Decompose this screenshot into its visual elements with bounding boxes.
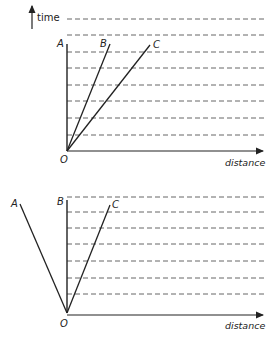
diagram-canvas: time A B C O distance — [0, 0, 278, 342]
bottom-line-c — [67, 205, 110, 313]
bottom-distance-label: distance — [225, 320, 265, 331]
top-label-c: C — [153, 39, 160, 50]
time-axis-label: time — [37, 12, 60, 23]
bottom-label-c: C — [112, 199, 119, 210]
top-distance-label: distance — [225, 157, 265, 168]
bottom-label-a: A — [10, 198, 18, 209]
bottom-line-a — [20, 204, 67, 313]
bottom-gridlines — [67, 197, 265, 294]
top-label-a: A — [56, 38, 64, 49]
bottom-diagram: A B C O distance — [10, 196, 265, 331]
top-origin-label: O — [60, 154, 68, 165]
top-label-b: B — [100, 38, 107, 49]
bottom-label-b: B — [57, 196, 64, 207]
bottom-origin-label: O — [60, 318, 68, 329]
top-diagram: time A B C O distance — [32, 6, 265, 168]
